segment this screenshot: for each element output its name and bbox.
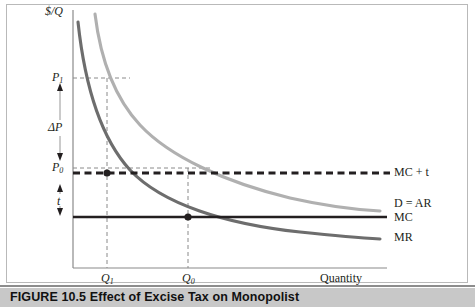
tax-label: t: [57, 195, 60, 207]
x-tick-label-q1: Q1: [101, 272, 114, 286]
q1-base: Q: [101, 271, 110, 285]
q0-base: Q: [182, 271, 191, 285]
x-axis-label: Quantity: [320, 272, 362, 284]
delta-p-label: ΔP: [48, 121, 62, 133]
equilibrium-point-no-tax: [184, 213, 191, 220]
x-tick-label-q0: Q0: [182, 272, 195, 286]
caption-divider: [0, 285, 475, 287]
equilibrium-point-with-tax: [103, 169, 110, 176]
figure-caption: FIGURE 10.5 Effect of Excise Tax on Mono…: [10, 290, 299, 304]
series-label-mc: MC: [394, 211, 413, 223]
series-label-mc-plus-t: MC + t: [394, 166, 429, 178]
y-tick-label-p0: P0: [52, 161, 63, 175]
y-axis-label: $/Q: [45, 5, 63, 17]
series-label-demand: D = AR: [394, 197, 431, 209]
y-tick-label-p1: P1: [52, 71, 63, 85]
p0-subscript: 0: [59, 166, 63, 175]
figure-container: $/Q Quantity P1 P0 Q1 Q0 ΔP t MC + t D =…: [0, 0, 475, 307]
series-label-mr: MR: [394, 231, 413, 243]
demand-curve: [95, 14, 380, 211]
p1-subscript: 1: [59, 76, 63, 85]
chart-canvas: [0, 0, 475, 307]
